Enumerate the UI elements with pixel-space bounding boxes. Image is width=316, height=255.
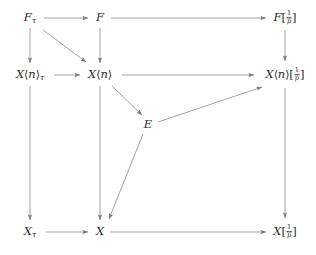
edge-group [30,18,285,232]
node-E: E [142,118,154,132]
node-X-inv-p: X[1p] [271,223,298,240]
node-Xn-inv-p: X⟨n⟩[1p] [264,66,307,83]
node-X-tau: Xτ [22,225,39,240]
arrow-e-Xn-E [112,86,142,115]
arrow-e-E-X [109,134,143,219]
node-X: X [94,225,106,239]
arrow-layer [0,0,316,255]
arrow-e-E-Xninvp [158,87,262,122]
node-F-inv-p: F[1p] [271,9,298,26]
node-Xn-tau: X⟨n⟩τ [14,68,46,83]
node-F-tau: Fτ [22,11,38,26]
commutative-diagram: FτFF[1p]X⟨n⟩τX⟨n⟩X⟨n⟩[1p]EXτXX[1p] [0,0,316,255]
node-Xn: X⟨n⟩ [86,68,114,82]
node-F: F [94,11,106,25]
arrow-e-Ftau-Xn [43,30,86,62]
